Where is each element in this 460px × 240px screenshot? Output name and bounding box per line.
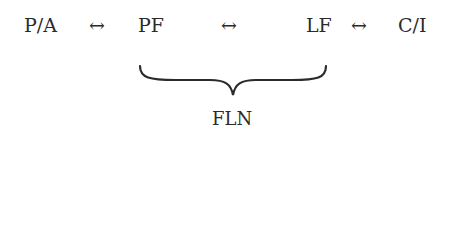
brace-label-fln: FLN (212, 110, 252, 128)
